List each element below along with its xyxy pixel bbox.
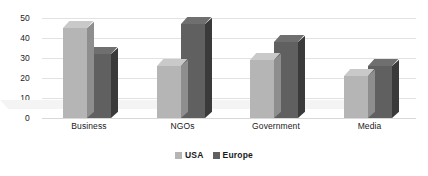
bar-usa-business [63,28,87,118]
legend-entry-usa[interactable]: USA [175,150,204,160]
gridline-0 [42,118,416,119]
y-tick-label: 30 [20,53,30,63]
y-tick-label: 0 [25,113,30,123]
bar-side-face [392,60,399,118]
y-tick-label: 50 [20,13,30,23]
legend-swatch-icon [175,152,182,159]
bar-side-face [205,18,212,118]
legend-label: Europe [223,150,253,160]
x-tick-label-media: Media [358,121,382,131]
bar-side-face [274,54,281,118]
x-tick-label-government: Government [252,121,300,131]
bar-front-face [250,60,274,118]
gridline-40 [42,38,416,39]
bar-side-face [111,48,118,118]
y-tick-label: 40 [20,33,30,43]
legend-swatch-icon [213,152,220,159]
gridline-50 [42,18,416,19]
bar-usa-government [250,60,274,118]
legend: USAEurope [0,150,428,160]
x-tick-label-business: Business [71,121,106,131]
bar-front-face [344,76,368,118]
bar-front-face [157,66,181,118]
x-tick-label-ngos: NGOs [170,121,194,131]
legend-entry-europe[interactable]: Europe [213,150,253,160]
y-tick-label: 20 [20,73,30,83]
bar-side-face [87,22,94,118]
bar-usa-media [344,76,368,118]
bar-side-face [181,60,188,118]
bar-front-face [63,28,87,118]
bar-side-face [298,36,305,118]
x-axis: BusinessNGOsGovernmentMedia [42,121,416,135]
bar-usa-ngos [157,66,181,118]
legend-label: USA [185,150,204,160]
bar-side-face [368,70,375,118]
bar-chart: 01020304050 BusinessNGOsGovernmentMedia … [0,0,428,176]
